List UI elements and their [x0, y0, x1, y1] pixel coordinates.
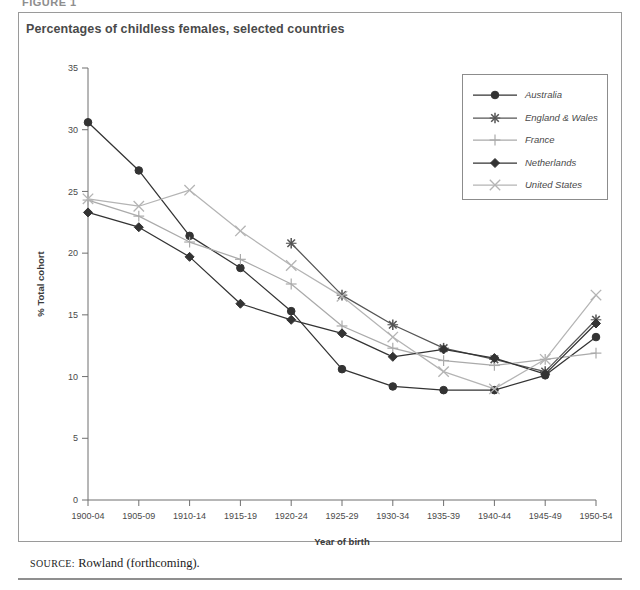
y-axis-tick-label: 0: [73, 495, 78, 505]
data-point-marker: [591, 348, 602, 359]
data-point-marker: [440, 386, 448, 394]
data-point-marker: [388, 332, 398, 342]
y-axis-title: % Total cohort: [35, 251, 46, 317]
data-point-marker: [438, 355, 449, 366]
data-point-marker: [133, 211, 144, 222]
legend-label: Australia: [525, 89, 562, 100]
y-axis-tick-label: 10: [68, 372, 78, 382]
data-point-marker: [338, 365, 346, 373]
data-point-marker: [287, 307, 295, 315]
x-axis-tick-label: 1925-29: [325, 511, 358, 521]
y-axis-tick-label: 5: [73, 433, 78, 443]
x-axis-tick-label: 1905-09: [122, 511, 155, 521]
data-point-marker: [83, 195, 94, 206]
legend-label: France: [525, 134, 555, 145]
legend-label: England & Wales: [525, 112, 598, 123]
x-axis-tick-label: 1910-14: [173, 511, 206, 521]
legend-item-france[interactable]: France: [471, 129, 603, 151]
source-note: source: Rowland (forthcoming).: [30, 556, 200, 571]
data-point-marker: [237, 264, 245, 272]
data-point-marker: [592, 333, 600, 341]
x-axis-tick-label: 1945-49: [529, 511, 562, 521]
y-axis-tick-label: 15: [68, 310, 78, 320]
data-point-marker: [235, 226, 245, 236]
data-point-marker: [84, 119, 92, 127]
legend-item-netherlands[interactable]: Netherlands: [471, 152, 603, 174]
y-axis-tick-label: 20: [68, 248, 78, 258]
legend-marker-diamond-icon: [471, 152, 519, 174]
data-point-marker: [287, 315, 296, 324]
series-france: [83, 195, 602, 371]
data-point-marker: [388, 319, 399, 330]
data-point-marker: [338, 329, 347, 338]
x-axis-tick-label: 1930-34: [376, 511, 409, 521]
footer-divider: [18, 578, 622, 580]
data-point-marker: [438, 366, 448, 376]
chart-legend: AustraliaEngland & WalesFranceNetherland…: [462, 74, 608, 200]
data-point-marker: [134, 223, 143, 232]
data-point-marker: [490, 135, 501, 146]
x-axis-title: Year of birth: [314, 536, 370, 547]
data-point-marker: [388, 352, 397, 361]
data-point-marker: [235, 254, 246, 265]
data-point-marker: [135, 167, 143, 175]
x-axis-tick-label: 1915-19: [224, 511, 257, 521]
y-axis-tick-label: 35: [68, 63, 78, 73]
x-axis-tick-label: 1950-54: [579, 511, 612, 521]
x-axis-tick-label: 1935-39: [427, 511, 460, 521]
data-point-marker: [490, 354, 499, 363]
data-point-marker: [490, 112, 501, 123]
y-axis-tick-label: 30: [68, 125, 78, 135]
series-united-states: [83, 185, 601, 394]
legend-marker-plus-icon: [471, 129, 519, 151]
data-point-marker: [491, 158, 500, 167]
legend-marker-cross-icon: [471, 174, 519, 196]
x-axis-tick-label: 1920-24: [275, 511, 308, 521]
data-point-marker: [286, 260, 296, 270]
legend-item-australia[interactable]: Australia: [471, 84, 603, 106]
legend-item-united-states[interactable]: United States: [471, 174, 603, 196]
data-point-marker: [286, 238, 297, 249]
y-axis-tick-label: 25: [68, 187, 78, 197]
data-point-marker: [84, 208, 93, 217]
x-axis-tick-label: 1900-04: [71, 511, 104, 521]
x-axis-tick-label: 1940-44: [478, 511, 511, 521]
data-point-marker: [491, 91, 499, 99]
legend-marker-circle-icon: [471, 84, 519, 106]
data-point-marker: [389, 383, 397, 391]
legend-label: United States: [525, 179, 582, 190]
legend-item-england-wales[interactable]: England & Wales: [471, 107, 603, 129]
data-point-marker: [591, 290, 601, 300]
figure-container: FIGURE 1 Percentages of childless female…: [0, 0, 640, 590]
legend-label: Netherlands: [525, 157, 576, 168]
legend-marker-asterisk-icon: [471, 107, 519, 129]
data-point-marker: [184, 185, 194, 195]
source-text: Rowland (forthcoming).: [78, 556, 200, 570]
source-label: source:: [30, 558, 75, 569]
